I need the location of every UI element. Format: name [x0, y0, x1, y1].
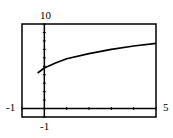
x-max-label: 5 [163, 102, 169, 113]
x-min-label: -1 [6, 102, 15, 113]
function-curve [38, 43, 156, 73]
y-max-label: 10 [40, 10, 51, 21]
y-min-label: -1 [40, 121, 49, 132]
graph-window [0, 0, 173, 138]
